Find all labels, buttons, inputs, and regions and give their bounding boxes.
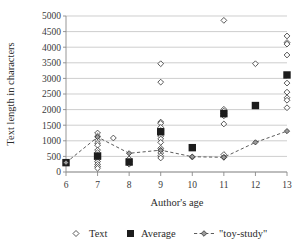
y-tick-label: 4500 [42, 27, 61, 37]
text-point-marker [284, 80, 290, 86]
toy-study-point-marker [127, 151, 132, 156]
x-axis-tick-labels: 678910111213 [64, 180, 292, 190]
text-point-marker [284, 52, 290, 58]
average-point-marker [220, 110, 227, 117]
average-point-marker [252, 102, 259, 109]
legend-label-text: Text [89, 228, 108, 239]
average-point-marker [283, 71, 290, 78]
y-axis-tick-labels: 0500100015002000250030003500400045005000 [42, 11, 66, 177]
x-tick-label: 10 [188, 180, 198, 190]
average-point-marker [125, 158, 132, 165]
x-tick-label: 7 [95, 180, 100, 190]
y-tick-label: 0 [56, 167, 61, 177]
x-tick-label: 13 [282, 180, 292, 190]
x-tick-label: 12 [251, 180, 261, 190]
legend-average-icon [127, 230, 134, 237]
toy-study-point-marker [284, 129, 289, 134]
text-point-marker [221, 121, 227, 127]
text-point-marker [284, 33, 290, 39]
y-tick-label: 1000 [42, 136, 61, 146]
text-point-marker [110, 135, 116, 141]
legend-text-icon [73, 231, 79, 237]
y-tick-label: 2000 [42, 105, 61, 115]
y-tick-label: 4000 [42, 43, 61, 53]
text-point-marker [221, 17, 227, 23]
text-point-marker [158, 61, 164, 67]
y-tick-label: 1500 [42, 121, 61, 131]
average-point-marker [189, 144, 196, 151]
y-tick-label: 5000 [42, 11, 61, 21]
scatter-chart: 0500100015002000250030003500400045005000… [0, 0, 306, 250]
text-point-marker [253, 61, 259, 67]
x-axis-ticks [66, 172, 287, 176]
x-tick-label: 9 [158, 180, 163, 190]
text-point-marker [158, 79, 164, 85]
x-tick-label: 11 [219, 180, 228, 190]
y-tick-label: 2500 [42, 89, 61, 99]
average-point-marker [157, 128, 164, 135]
legend-label-average: Average [141, 228, 176, 239]
chart-container: 0500100015002000250030003500400045005000… [0, 0, 306, 250]
y-tick-label: 3500 [42, 58, 61, 68]
x-axis-title: Author's age [151, 197, 204, 208]
y-tick-label: 500 [47, 152, 62, 162]
average-point-marker [94, 152, 101, 159]
chart-legend: TextAverage"toy-study" [73, 228, 267, 239]
y-axis-title: Text length in characters [5, 42, 16, 145]
x-tick-label: 8 [127, 180, 132, 190]
x-tick-label: 6 [64, 180, 69, 190]
y-tick-label: 3000 [42, 74, 61, 84]
legend-label-toy-study: "toy-study" [219, 228, 267, 239]
legend-toy-study-icon [201, 231, 207, 237]
